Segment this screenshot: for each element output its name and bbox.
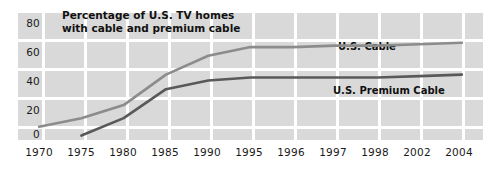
x-axis-tick-1975: 1975 xyxy=(59,146,103,158)
vertical-gridline xyxy=(420,10,423,140)
x-axis-tick-2002: 2002 xyxy=(395,146,439,158)
x-axis-tick-1980: 1980 xyxy=(101,146,145,158)
vertical-gridline xyxy=(378,10,381,140)
x-axis-tick-1995: 1995 xyxy=(227,146,271,158)
chart-title: Percentage of U.S. TV homes with cable a… xyxy=(62,9,240,35)
y-axis-tick-60: 60 xyxy=(0,46,40,58)
x-axis-tick-1997: 1997 xyxy=(311,146,355,158)
x-axis-tick-1985: 1985 xyxy=(143,146,187,158)
y-axis-tick-40: 40 xyxy=(0,75,40,87)
x-axis-tick-2004: 2004 xyxy=(437,146,481,158)
series-label-us-cable: U.S. Cable xyxy=(338,41,396,52)
horizontal-gridline xyxy=(18,39,483,42)
x-axis-tick-1970: 1970 xyxy=(17,146,61,158)
horizontal-gridline xyxy=(18,126,483,129)
y-axis-tick-80: 80 xyxy=(0,17,40,29)
cable-penetration-line-chart: Percentage of U.S. TV homes with cable a… xyxy=(0,0,491,172)
vertical-gridline xyxy=(42,10,45,140)
series-label-us-premium-cable: U.S. Premium Cable xyxy=(333,85,445,96)
vertical-gridline xyxy=(462,10,465,140)
y-axis-tick-20: 20 xyxy=(0,104,40,116)
x-axis-tick-1998: 1998 xyxy=(353,146,397,158)
x-axis-tick-1990: 1990 xyxy=(185,146,229,158)
horizontal-gridline xyxy=(18,68,483,71)
vertical-gridline xyxy=(294,10,297,140)
horizontal-gridline xyxy=(18,97,483,100)
vertical-gridline xyxy=(252,10,255,140)
vertical-gridline xyxy=(336,10,339,140)
x-axis-tick-1996: 1996 xyxy=(269,146,313,158)
y-axis-tick-0: 0 xyxy=(0,128,40,140)
